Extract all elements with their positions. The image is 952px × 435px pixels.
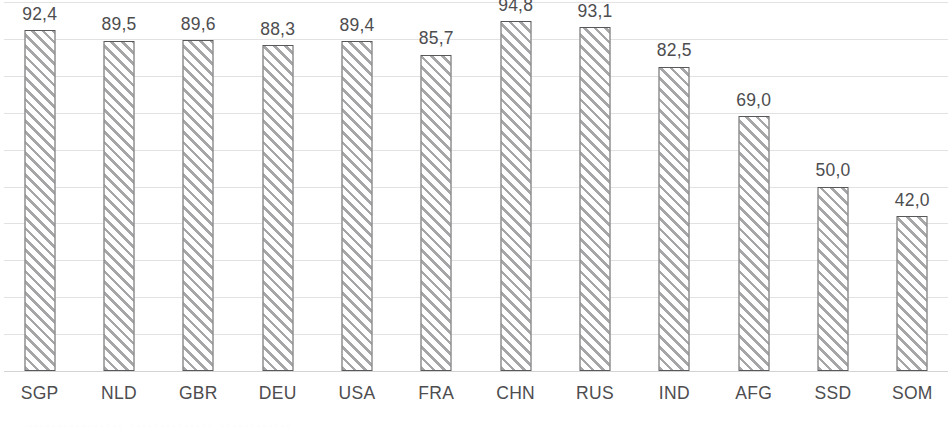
bar-value-label: 93,1 <box>578 3 613 21</box>
bar[interactable] <box>103 41 134 371</box>
bar[interactable] <box>817 187 848 372</box>
clipped-footer-text: ................ .............. ........… <box>28 424 293 430</box>
category-label: RUS <box>555 385 634 403</box>
bar-group[interactable]: 82,5 <box>635 0 714 371</box>
bar[interactable] <box>341 41 372 371</box>
bar-value-label: 89,6 <box>181 16 216 34</box>
category-label: GBR <box>159 385 238 403</box>
bar-value-label: 89,5 <box>102 16 137 34</box>
category-label: SSD <box>793 385 872 403</box>
bar-group[interactable]: 92,4 <box>0 0 79 371</box>
bar[interactable] <box>421 55 452 371</box>
category-label: USA <box>317 385 396 403</box>
bar[interactable] <box>24 30 55 371</box>
category-labels-layer: SGPNLDGBRDEUUSAFRACHNRUSINDAFGSSDSOM <box>0 372 952 412</box>
bar-value-label: 50,0 <box>816 162 851 180</box>
category-label: AFG <box>714 385 793 403</box>
bars-layer: 92,489,589,688,389,485,794,893,182,569,0… <box>0 0 952 372</box>
bar-group[interactable]: 89,6 <box>159 0 238 371</box>
category-label: CHN <box>476 385 555 403</box>
category-label: NLD <box>79 385 158 403</box>
bar-group[interactable]: 89,4 <box>317 0 396 371</box>
bar-value-label: 89,4 <box>340 17 375 35</box>
category-label: SOM <box>873 385 952 403</box>
bar[interactable] <box>579 27 610 371</box>
bar-value-label: 92,4 <box>22 6 57 24</box>
bar-group[interactable]: 50,0 <box>793 0 872 371</box>
bar[interactable] <box>262 45 293 371</box>
bar-value-label: 85,7 <box>419 30 454 48</box>
bar-value-label: 88,3 <box>260 21 295 39</box>
category-label: SGP <box>0 385 79 403</box>
bar[interactable] <box>659 67 690 371</box>
bar[interactable] <box>500 21 531 371</box>
bar-value-label: 94,8 <box>498 0 533 14</box>
bar-value-label: 69,0 <box>736 92 771 110</box>
bar-group[interactable]: 85,7 <box>397 0 476 371</box>
bar-group[interactable]: 42,0 <box>873 0 952 371</box>
bar[interactable] <box>738 116 769 371</box>
bar-group[interactable]: 94,8 <box>476 0 555 371</box>
bar-value-label: 82,5 <box>657 42 692 60</box>
bar-group[interactable]: 88,3 <box>238 0 317 371</box>
category-label: IND <box>635 385 714 403</box>
category-label: DEU <box>238 385 317 403</box>
category-label: FRA <box>397 385 476 403</box>
clipped-footer-strip: ................ .............. ........… <box>0 424 952 435</box>
bar-group[interactable]: 93,1 <box>555 0 634 371</box>
bar-chart: 92,489,589,688,389,485,794,893,182,569,0… <box>0 0 952 435</box>
bar-value-label: 42,0 <box>895 192 930 210</box>
bar-group[interactable]: 69,0 <box>714 0 793 371</box>
bar-group[interactable]: 89,5 <box>79 0 158 371</box>
bar[interactable] <box>183 40 214 371</box>
bar[interactable] <box>897 216 928 371</box>
